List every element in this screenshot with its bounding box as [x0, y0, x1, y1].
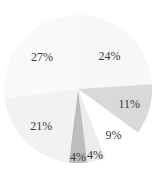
- slice-label: 21%: [30, 119, 52, 133]
- slice-label: 27%: [31, 50, 53, 64]
- slice-label: 9%: [105, 128, 121, 142]
- pie-chart: 24%11%9%4%4%21%27%: [0, 0, 163, 170]
- pie-slices: [4, 15, 152, 163]
- slice-label: 24%: [98, 49, 120, 63]
- slice-label: 4%: [87, 148, 103, 162]
- slice-label: 4%: [70, 150, 86, 164]
- slice-label: 11%: [118, 97, 140, 111]
